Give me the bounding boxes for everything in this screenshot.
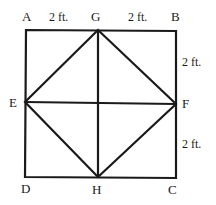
point-label-g: G xyxy=(91,10,100,23)
segment-ef xyxy=(25,102,176,104)
point-label-b: B xyxy=(171,10,180,23)
point-label-d: D xyxy=(21,182,30,195)
point-label-a: A xyxy=(22,10,31,23)
dimension-bf: 2 ft. xyxy=(182,56,201,68)
dimension-ag: 2 ft. xyxy=(49,11,68,23)
point-label-f: F xyxy=(182,97,189,110)
dimension-gb: 2 ft. xyxy=(128,11,147,23)
dimension-fc: 2 ft. xyxy=(182,138,201,150)
point-label-h: H xyxy=(92,183,101,196)
point-label-c: C xyxy=(168,183,177,196)
point-label-e: E xyxy=(9,96,17,109)
